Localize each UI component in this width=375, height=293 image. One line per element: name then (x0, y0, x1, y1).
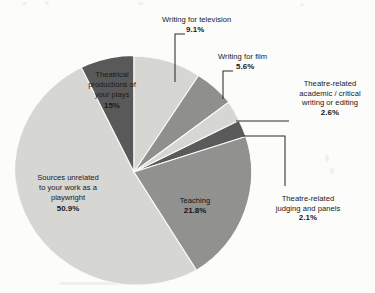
callout-pct-academic: 2.6% (288, 108, 372, 118)
slice-label-sources-unrelated: Sources unrelated to your work as a play… (16, 173, 120, 214)
callout-label-academic-3: writing or editing (288, 98, 372, 108)
slice-label-theatrical-productions: Theatrical productions of your plays 15% (66, 70, 158, 111)
callout-label-television: Writing for television (162, 15, 231, 25)
slice-label-teaching-1: Teaching (164, 196, 226, 206)
slice-label-sources-1: Sources unrelated (16, 173, 120, 183)
slice-label-theatrical-1: Theatrical (66, 70, 158, 80)
callout-academic-writing: Theatre-related academic / critical writ… (288, 79, 372, 117)
callout-pct-television: 9.1% (186, 25, 231, 35)
slice-pct-theatrical: 15% (66, 101, 158, 111)
callout-label-judging-2: judging and panels (253, 204, 363, 214)
slice-label-teaching: Teaching 21.8% (164, 196, 226, 216)
slice-pct-teaching: 21.8% (164, 206, 226, 216)
leader-line-film (223, 71, 233, 99)
pie-chart-svg (0, 0, 375, 293)
callout-label-film: Writing for film (218, 52, 267, 62)
pie-chart-figure: Writing for television 9.1% Writing for … (0, 0, 375, 293)
slice-label-theatrical-2: productions of (66, 80, 158, 90)
slice-label-sources-2: to your work as a (16, 183, 120, 193)
slice-label-theatrical-3: your plays (66, 90, 158, 100)
callout-label-academic-1: Theatre-related (288, 79, 372, 89)
callout-label-academic-2: academic / critical (288, 89, 372, 99)
slice-label-sources-3: playwright (16, 193, 120, 203)
callout-pct-film: 5.6% (236, 62, 267, 72)
callout-writing-television: Writing for television 9.1% (162, 15, 231, 34)
slice-pct-sources: 50.9% (16, 204, 120, 214)
callout-writing-film: Writing for film 5.6% (218, 52, 267, 71)
callout-judging-panels: Theatre-related judging and panels 2.1% (253, 194, 363, 223)
callout-pct-judging: 2.1% (253, 213, 363, 223)
callout-label-judging-1: Theatre-related (253, 194, 363, 204)
